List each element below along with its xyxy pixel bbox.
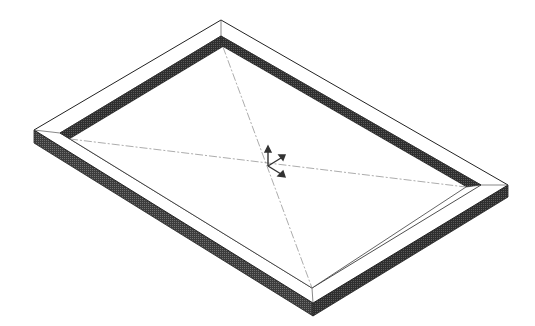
- cad-viewport[interactable]: [0, 0, 535, 326]
- frame-model: [0, 0, 535, 326]
